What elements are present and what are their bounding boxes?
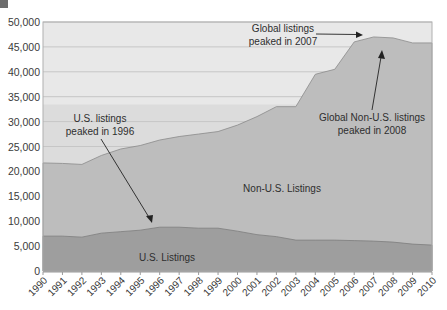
annotation-nonus-line1: Global Non-U.S. listings [319, 112, 425, 123]
x-tick-label: 1997 [162, 274, 186, 298]
x-tick-label: 2006 [337, 274, 361, 298]
x-tick-label: 2008 [376, 274, 400, 298]
y-tick-label: 5,000 [14, 240, 40, 252]
x-tick-label: 1996 [143, 274, 167, 298]
x-tick-label: 1994 [104, 274, 128, 298]
y-tick-label: 10,000 [8, 215, 40, 227]
x-tick-label: 1998 [182, 274, 206, 298]
stacked-area-chart: 05,00010,00015,00020,00025,00030,00035,0… [0, 0, 447, 310]
x-axis: 1990199119921993199419951996199719981999… [26, 272, 439, 298]
us-area-label: U.S. Listings [139, 252, 195, 263]
y-tick-label: 45,000 [8, 41, 40, 53]
y-tick-label: 40,000 [8, 66, 40, 78]
x-tick-label: 2007 [357, 274, 381, 298]
arrow-line-global [316, 34, 357, 35]
x-tick-label: 1992 [65, 274, 89, 298]
y-tick-label: 35,000 [8, 91, 40, 103]
x-tick-label: 2009 [395, 274, 419, 298]
y-tick-label: 15,000 [8, 190, 40, 202]
y-tick-label: 20,000 [8, 165, 40, 177]
x-tick-label: 2005 [318, 274, 342, 298]
y-tick-label: 0 [34, 265, 40, 277]
x-tick-label: 1999 [201, 274, 225, 298]
x-tick-label: 2001 [240, 274, 264, 298]
x-tick-label: 2000 [220, 274, 244, 298]
annotation-us-line1: U.S. listings [74, 113, 127, 124]
y-tick-label: 50,000 [8, 16, 40, 28]
y-tick-label: 25,000 [8, 141, 40, 153]
x-tick-label: 2004 [298, 274, 322, 298]
x-tick-label: 2010 [415, 274, 439, 298]
y-axis: 05,00010,00015,00020,00025,00030,00035,0… [8, 16, 40, 277]
annotation-global-line2: peaked in 2007 [249, 36, 318, 47]
x-tick-label: 1990 [26, 274, 50, 298]
x-tick-label: 1995 [123, 274, 147, 298]
non-us-area-label: Non-U.S. Listings [243, 183, 321, 194]
x-tick-label: 1991 [45, 274, 69, 298]
annotation-us-line2: peaked in 1996 [66, 126, 135, 137]
y-tick-label: 30,000 [8, 116, 40, 128]
x-tick-label: 1993 [84, 274, 108, 298]
annotation-nonus-line2: peaked in 2008 [338, 125, 407, 136]
x-tick-label: 2003 [279, 274, 303, 298]
x-tick-label: 2002 [259, 274, 283, 298]
annotation-global-line1: Global listings [252, 23, 314, 34]
